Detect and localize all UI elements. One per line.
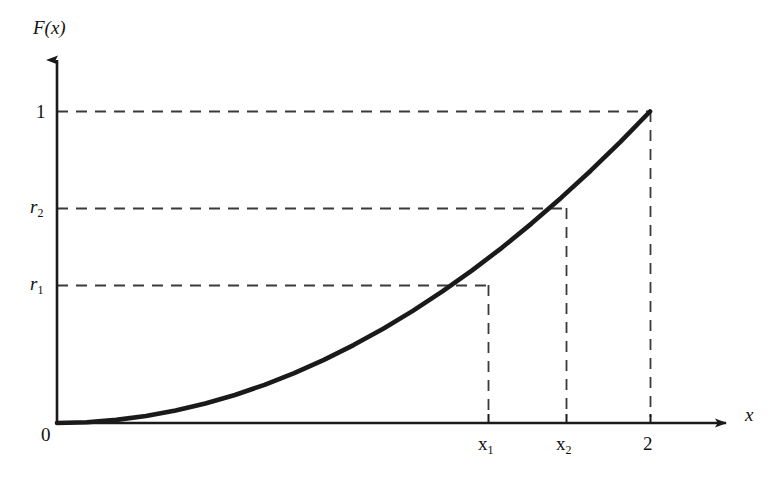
plot-area — [0, 0, 770, 478]
y-tick-label-r2: r2 — [30, 196, 43, 218]
x-tick-label-x1-sub: 1 — [488, 443, 494, 457]
cdf-figure: F(x) x 1 r2 r1 0 x1 x2 2 — [0, 0, 770, 478]
x-tick-label-x1-base: x — [478, 433, 488, 454]
x-tick-label-two: 2 — [643, 433, 653, 455]
y-tick-label-one: 1 — [36, 101, 46, 123]
y-tick-label-r1-sub: 1 — [37, 283, 43, 297]
cdf-curve — [57, 112, 650, 424]
y-tick-label-r1: r1 — [30, 273, 43, 295]
x-axis-title: x — [745, 404, 753, 426]
origin-label: 0 — [41, 424, 51, 446]
x-tick-label-x2: x2 — [556, 433, 572, 455]
x-tick-label-x2-base: x — [556, 433, 566, 454]
y-axis-title: F(x) — [33, 17, 66, 39]
y-tick-label-r2-sub: 2 — [37, 206, 43, 220]
x-tick-label-x2-sub: 2 — [566, 443, 572, 457]
x-tick-label-x1: x1 — [478, 433, 494, 455]
